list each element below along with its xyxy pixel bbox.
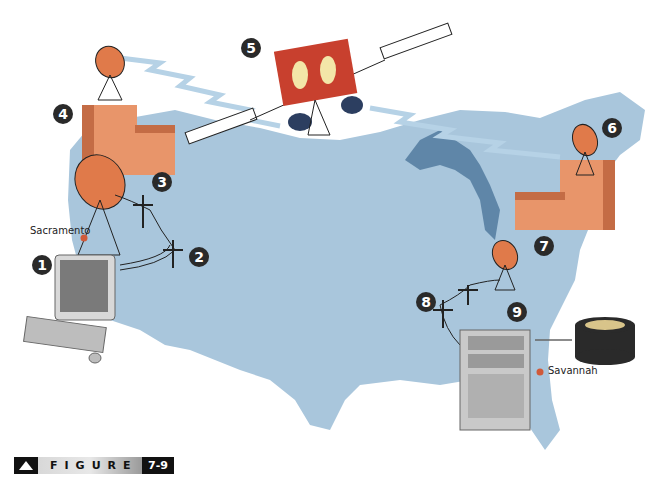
disk-stack-icon [575,317,635,365]
figure-label: FIGURE [38,457,142,474]
server-icon [460,330,530,430]
step-badge-2: 2 [189,247,209,267]
triangle-icon [14,457,38,474]
step-badge-7: 7 [534,236,554,256]
network-transmission-diagram: Sacramento Savannah 1 2 3 4 5 6 7 8 9 FI… [0,0,668,481]
step-badge-1: 1 [32,255,52,275]
step-badge-9: 9 [507,302,527,322]
dish-icon-4 [91,42,130,100]
step-badge-3: 3 [152,172,172,192]
step-badge-4: 4 [53,104,73,124]
figure-number: 7-9 [142,457,174,474]
city-label-savannah: Savannah [548,365,598,376]
city-label-sacramento: Sacramento [30,225,90,236]
figure-caption-bar: FIGURE 7-9 [14,457,174,474]
step-badge-6: 6 [602,118,622,138]
savannah-dot [537,369,544,376]
step-badge-8: 8 [416,292,436,312]
step-badge-5: 5 [241,38,261,58]
us-map-illustration [0,0,668,481]
